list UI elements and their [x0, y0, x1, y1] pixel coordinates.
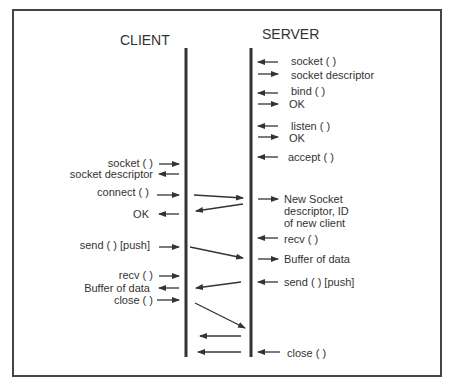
client-label-connect: connect ( )	[97, 186, 149, 198]
client-call-arrows	[157, 164, 179, 300]
server-label-ok-1: OK	[289, 98, 305, 110]
server-call-arrows	[258, 62, 280, 352]
server-label-ok-2: OK	[289, 132, 305, 144]
sequence-lines	[0, 0, 450, 387]
client-label-send: send ( ) [push]	[80, 239, 150, 251]
client-label-ok: OK	[133, 208, 149, 220]
client-label-socket-descriptor: socket descriptor	[70, 168, 153, 180]
server-label-send: send ( ) [push]	[284, 276, 354, 288]
server-label-descriptor-id: descriptor, ID	[284, 205, 349, 217]
server-label-recv: recv ( )	[284, 233, 318, 245]
server-label-new-socket: New Socket	[284, 193, 343, 205]
server-label-buffer: Buffer of data	[284, 253, 350, 265]
server-label-new-client: of new client	[284, 217, 345, 229]
server-label-socket: socket ( )	[291, 55, 336, 67]
client-label-recv: recv ( )	[119, 269, 153, 281]
message-arrows	[190, 195, 245, 352]
server-label-socket-descriptor: socket descriptor	[291, 69, 374, 81]
server-label-listen: listen ( )	[291, 120, 330, 132]
client-label-buffer: Buffer of data	[84, 282, 150, 294]
server-label-bind: bind ( )	[291, 85, 325, 97]
server-label-accept: accept ( )	[288, 151, 334, 163]
server-label-close: close ( )	[287, 347, 326, 359]
client-label-close: close ( )	[114, 294, 153, 306]
